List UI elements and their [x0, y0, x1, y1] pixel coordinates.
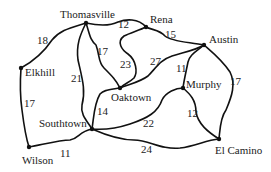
weight-rena-oaktown: 23 [120, 59, 131, 70]
node-elkhill [19, 66, 23, 70]
edge-thomasville-rena [86, 20, 146, 27]
edge-thomasville-elkhill [21, 23, 86, 68]
weight-southtown-murphy: 22 [143, 118, 154, 129]
node-austin [202, 43, 206, 47]
weight-austin-murphy: 11 [176, 63, 187, 74]
label-murphy: Murphy [186, 79, 221, 90]
weight-thomasville-southtown: 21 [71, 73, 82, 84]
weight-oaktown-southtown: 14 [97, 106, 108, 117]
weight-rena-austin: 15 [165, 29, 176, 40]
label-elcamino: El Camino [215, 145, 262, 156]
label-southtown: Southtown [39, 118, 87, 129]
edge-austin-elcamino [204, 45, 233, 139]
label-oaktown: Oaktown [111, 92, 151, 103]
label-austin: Austin [209, 34, 238, 45]
weight-thomasville-elkhill: 18 [37, 35, 48, 46]
weight-southtown-elcamino: 24 [141, 144, 152, 155]
node-wilson [27, 145, 31, 149]
edge-wilson-southtown [29, 129, 92, 147]
node-thomasville [84, 21, 88, 25]
weight-wilson-southtown: 11 [60, 148, 71, 159]
weight-elkhill-wilson: 17 [24, 98, 35, 109]
node-murphy [181, 86, 185, 90]
node-southtown [90, 127, 94, 131]
label-thomasville: Thomasville [60, 9, 115, 20]
label-rena: Rena [150, 14, 173, 25]
label-elkhill: Elkhill [25, 67, 55, 78]
edge-southtown-elcamino [92, 129, 219, 148]
weight-thomasville-rena: 12 [118, 19, 129, 30]
label-wilson: Wilson [22, 155, 53, 166]
node-elcamino [217, 137, 221, 141]
weight-oaktown-austin: 27 [150, 56, 161, 67]
weight-murphy-elcamino: 12 [187, 108, 198, 119]
weight-austin-elcamino: 17 [230, 76, 241, 87]
node-rena [144, 25, 148, 29]
node-oaktown [118, 86, 122, 90]
weight-thomasville-oaktown: 17 [97, 46, 108, 57]
